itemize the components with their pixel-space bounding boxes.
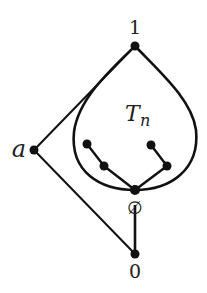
edge-a-zero xyxy=(34,150,135,254)
label-tree-sub: n xyxy=(140,111,150,130)
label-empty: ∅ xyxy=(127,197,143,218)
node-tree-right-top xyxy=(147,141,156,150)
label-a: a xyxy=(12,135,26,163)
node-tree-left-top xyxy=(83,140,92,149)
node-empty xyxy=(130,185,140,195)
node-tree-right-mid xyxy=(163,162,172,171)
node-tree-left-mid xyxy=(100,162,109,171)
label-one: 1 xyxy=(129,16,141,38)
node-a xyxy=(30,146,39,155)
node-zero xyxy=(131,250,140,259)
lattice-diagram: 1 a T n ∅ 0 xyxy=(0,0,207,293)
edge-one-a xyxy=(34,46,135,150)
label-zero: 0 xyxy=(129,260,141,282)
node-one xyxy=(131,42,140,51)
